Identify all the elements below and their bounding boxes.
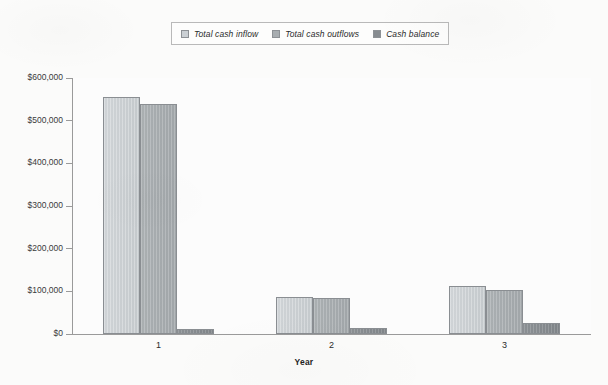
y-tick-mark xyxy=(66,120,72,121)
bar xyxy=(276,297,313,334)
y-tick-label: $600,000 xyxy=(28,72,63,82)
y-axis-line xyxy=(72,78,73,335)
legend-swatch-icon xyxy=(272,30,280,38)
y-tick-label: $100,000 xyxy=(28,285,63,295)
bar xyxy=(486,290,523,334)
x-tick-label: 3 xyxy=(502,340,507,350)
bar xyxy=(350,328,387,334)
legend-item[interactable]: Cash balance xyxy=(373,29,439,39)
legend-label: Cash balance xyxy=(386,29,439,39)
bar-chart: Total cash inflowTotal cash outflowsCash… xyxy=(0,0,608,385)
y-tick-label: $0 xyxy=(54,328,63,338)
y-tick-mark xyxy=(66,163,72,164)
y-tick-mark xyxy=(66,334,72,335)
bar xyxy=(313,298,350,334)
bar xyxy=(449,286,486,334)
legend-swatch-icon xyxy=(181,30,189,38)
y-tick-label: $300,000 xyxy=(28,200,63,210)
y-tick-mark xyxy=(66,291,72,292)
legend-label: Total cash inflow xyxy=(194,29,258,39)
x-tick-label: 1 xyxy=(156,340,161,350)
legend-swatch-icon xyxy=(373,30,381,38)
x-axis-title: Year xyxy=(0,357,608,367)
legend-item[interactable]: Total cash inflow xyxy=(181,29,258,39)
x-tick-label: 2 xyxy=(329,340,334,350)
y-tick-mark xyxy=(66,78,72,79)
x-axis-line xyxy=(72,334,591,335)
bar xyxy=(523,323,560,334)
legend-item[interactable]: Total cash outflows xyxy=(272,29,359,39)
bar xyxy=(103,97,140,334)
chart-legend: Total cash inflowTotal cash outflowsCash… xyxy=(171,22,449,45)
y-tick-mark xyxy=(66,248,72,249)
y-tick-mark xyxy=(66,206,72,207)
y-tick-label: $500,000 xyxy=(28,115,63,125)
legend-label: Total cash outflows xyxy=(285,29,359,39)
y-tick-label: $200,000 xyxy=(28,243,63,253)
bar xyxy=(177,329,214,334)
bar xyxy=(140,104,177,334)
y-tick-label: $400,000 xyxy=(28,157,63,167)
